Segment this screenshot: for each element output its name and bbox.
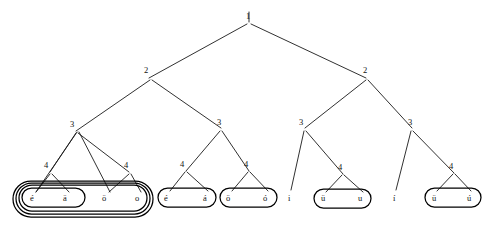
leaf-g1-e: é — [30, 194, 34, 203]
leaf-g2-a-acute: á — [203, 194, 207, 203]
edge-3d-to-leaf-iacute — [396, 131, 411, 190]
edge-1-to-2-right — [251, 24, 366, 78]
node-label-tier2-right: 2 — [363, 66, 367, 75]
node-label-tier4-f: 4 — [449, 162, 453, 171]
node-label-tier3-c: 3 — [299, 118, 303, 127]
leaf-g1-o: o — [135, 194, 139, 203]
edge-2left-to-3a — [76, 80, 150, 131]
leaf-g5-u-umlaut: ü — [432, 194, 436, 203]
edge-2right-to-3c — [305, 80, 366, 128]
leaf-i-acute: í — [393, 194, 395, 203]
node-label-tier2-left: 2 — [144, 66, 148, 75]
leaf-g2-e-acute: é — [164, 194, 168, 203]
leaf-g3-o-acute: ó — [263, 194, 267, 203]
node-label-tier4-b: 4 — [124, 161, 128, 170]
node-label-tier3-d: 3 — [408, 118, 412, 127]
edge-1-to-2-left — [149, 24, 247, 78]
node-label-tier4-e: 4 — [338, 163, 342, 172]
edge-3c-to-leaf-i — [291, 131, 304, 190]
edge-3b-to-4c — [186, 131, 220, 171]
node-label-tier4-c: 4 — [180, 160, 184, 169]
leaf-g5-u-acute: ú — [467, 194, 471, 203]
edge-2left-to-3b — [152, 80, 221, 128]
leaf-g1-o-umlaut: ö — [102, 194, 106, 203]
leaf-g3-o-double-acute: ö — [226, 194, 230, 203]
node-label-tier3-a: 3 — [70, 120, 74, 129]
leaf-g4-u-umlaut: ü — [321, 194, 325, 203]
edge-2right-to-3d — [368, 80, 412, 128]
tree-edges-svg — [0, 0, 487, 228]
node-label-tier4-a: 4 — [44, 161, 48, 170]
node-label-tier4-d: 4 — [244, 160, 248, 169]
leaf-g1-a: ä — [63, 194, 67, 203]
edge-3d-to-4f — [413, 131, 454, 173]
edge-3a-to-4b — [78, 133, 129, 172]
leaf-i: i — [288, 194, 290, 203]
node-label-tier3-b: 3 — [217, 118, 221, 127]
node-label-root: 1 — [246, 12, 250, 21]
feature-tree-diagram: 1 2 2 3 3 3 3 4 4 4 4 4 4 é ä ö o é … — [0, 0, 487, 228]
leaf-g4-u: u — [358, 194, 362, 203]
